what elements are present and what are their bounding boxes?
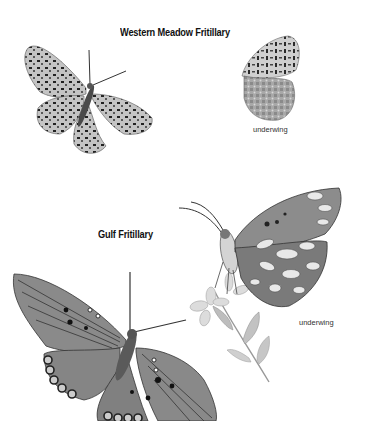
western-meadow-fritillary-underwing-caption: underwing	[253, 125, 288, 134]
species-title-gulf-fritillary: Gulf Fritillary	[98, 228, 153, 240]
western-meadow-fritillary-upperwing-illustration	[20, 38, 160, 158]
gulf-fritillary-underwing-caption: underwing	[299, 318, 334, 327]
gulf-fritillary-upperwing-illustration	[8, 268, 228, 421]
western-meadow-fritillary-underwing-illustration	[238, 34, 304, 124]
species-title-western-meadow-fritillary: Western Meadow Fritillary	[120, 26, 230, 38]
